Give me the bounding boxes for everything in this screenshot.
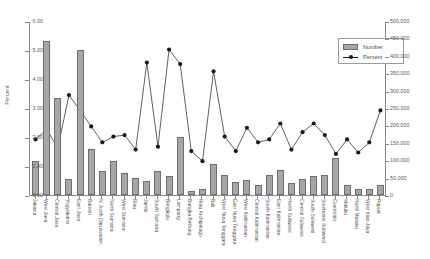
x-axis-label-south-kalimantan: South Kalimantan xyxy=(265,199,270,238)
y-axis-right-tick-label: 300,000 xyxy=(390,89,430,94)
percent-marker-south-sulawesi: South Sulawesi: 2.50% xyxy=(312,121,316,125)
bar-papua xyxy=(377,185,384,195)
bar-south-sumatra xyxy=(154,171,161,195)
x-axis-label-bangka-belitung: Bangka Belitung xyxy=(187,199,192,235)
y-axis-right-tick xyxy=(385,74,389,75)
bar-south-sulawesi xyxy=(310,176,317,195)
percent-marker-central-kalimantan: Central Kalimantan: 1.85% xyxy=(256,140,260,144)
y-axis-left-tick-label: 6.00 xyxy=(15,19,43,24)
percent-marker-bengkulu: Bengkulu: 5.05% xyxy=(167,47,171,51)
percent-marker-north-sumatra: North Sumatra: 2.05% xyxy=(111,134,115,138)
y-axis-left-label: Percent xyxy=(4,72,10,118)
bar-west-kalimantan xyxy=(243,180,250,195)
bar-east-java xyxy=(77,50,84,195)
y-axis-left-tick-label: 0.00 xyxy=(15,193,43,198)
y-axis-right-tick xyxy=(385,39,389,40)
percent-marker-north-maluku: North Maluku: 1.50% xyxy=(356,150,360,154)
percent-marker-jambi: Jambi: 4.60% xyxy=(145,61,149,65)
y-axis-right-tick-label: 250,000 xyxy=(390,106,430,111)
percent-marker-bali: Bali: 4.30% xyxy=(211,69,215,73)
x-axis-label-west-nusa-tenggara: West Nusa Tenggara xyxy=(221,199,226,246)
x-axis-label-southeast-sulawesi: Southeast Sulawesi xyxy=(321,199,326,243)
y-axis-left-tick-label: 4.00 xyxy=(15,77,43,82)
bar-riau-archipelago xyxy=(199,189,206,195)
y-axis-right-tick-label: 450,000 xyxy=(390,36,430,41)
bar-southeast-sulawesi xyxy=(321,175,328,195)
bar-yogyakarta xyxy=(65,179,72,195)
bar-west-java xyxy=(43,41,50,195)
legend-item-number: Number xyxy=(343,42,403,52)
y-axis-right-tick-label: 500,000 xyxy=(390,19,430,24)
y-axis-left-tick xyxy=(25,196,29,197)
y-axis-right-tick-label: 100,000 xyxy=(390,158,430,163)
y-axis-right-tick xyxy=(385,179,389,180)
bar-north-sulawesi xyxy=(288,183,295,195)
x-axis-label-papua: Papua xyxy=(376,199,381,213)
percent-marker-west-kalimantan: West Kalimantan: 2.35% xyxy=(245,126,249,130)
x-axis-label-east-kalimantan: East Kalimantan xyxy=(276,199,281,235)
y-axis-left-tick xyxy=(25,80,29,81)
x-axis-label-east-java: East Java xyxy=(76,199,81,221)
percent-marker-riau-archipelago: Riau Archipelago: 1.20% xyxy=(200,159,204,163)
plot-area: Jakarta: 1.95%West Java: 2.30%Central Ja… xyxy=(29,22,385,196)
percent-marker-riau: Riau: 1.60% xyxy=(134,148,138,152)
percent-marker-southeast-sulawesi: Southeast Sulawesi: 2.10% xyxy=(323,133,327,137)
percent-marker-east-kalimantan: East Kalimantan: 2.50% xyxy=(278,121,282,125)
chart-figure: Number and Percent of Population Percent… xyxy=(0,0,430,259)
x-axis-label-n-aceh-darussalam: N. Aceh Darussalam xyxy=(98,199,103,245)
x-axis-label-bengkulu: Bengkulu xyxy=(165,199,170,220)
bar-central-java xyxy=(54,98,61,195)
percent-marker-west-sumatra: West Sumatra: 2.10% xyxy=(122,133,126,137)
bar-maluku xyxy=(344,185,351,195)
x-axis-label-banten: Banten xyxy=(87,199,92,215)
y-axis-left-tick-label: 1.00 xyxy=(15,164,43,169)
legend-label-percent: Percent xyxy=(363,54,382,60)
x-axis-label-bali: Bali xyxy=(210,199,215,207)
x-axis-label-west-sumatra: West Sumatra xyxy=(121,199,126,231)
percent-marker-south-sumatra: South Sumatra: 1.70% xyxy=(156,145,160,149)
y-axis-right-tick xyxy=(385,92,389,93)
y-axis-right-tick-label: 150,000 xyxy=(390,141,430,146)
bar-bangka-belitung xyxy=(188,191,195,195)
x-axis-label-west-kalimantan: West Kalimantan xyxy=(243,199,248,237)
x-axis-label-west-irian-jaya: West Irian Jaya xyxy=(365,199,370,233)
percent-marker-bangka-belitung: Bangka Belitung: 1.55% xyxy=(189,149,193,153)
y-axis-left-tick xyxy=(25,138,29,139)
bar-west-nusa-tenggara xyxy=(221,175,228,195)
bar-gorontalo xyxy=(332,158,339,195)
y-axis-right-tick-label: 350,000 xyxy=(390,71,430,76)
x-axis-label-lampung: Lampung xyxy=(176,199,181,220)
bar-jambi xyxy=(143,181,150,195)
x-axis-label-riau: Riau xyxy=(132,199,137,209)
x-axis-label-north-sumatra: North Sumatra xyxy=(109,199,114,232)
y-axis-left-tick xyxy=(25,109,29,110)
bar-north-maluku xyxy=(355,189,362,195)
percent-marker-lampung: Lampung: 4.55% xyxy=(178,62,182,66)
x-axis-label-yogyakarta: Yogyakarta xyxy=(65,199,70,224)
x-axis-label-central-sulawesi: Central Sulawesi xyxy=(299,199,304,237)
percent-marker-west-irian-jaya: West Irian Jaya: 1.85% xyxy=(367,140,371,144)
x-axis-label-east-nusa-tenggara: East Nusa Tenggara xyxy=(232,199,237,244)
y-axis-right-tick-label: 400,000 xyxy=(390,54,430,59)
bar-bali xyxy=(210,164,217,195)
x-axis-label-central-kalimantan: Central Kalimantan xyxy=(254,199,259,242)
percent-marker-banten: Banten: 2.40% xyxy=(89,124,93,128)
bar-riau xyxy=(132,178,139,195)
percent-marker-yogyakarta: Yogyakarta: 3.48% xyxy=(67,93,71,97)
y-axis-left-tick xyxy=(25,167,29,168)
y-axis-right-tick xyxy=(385,196,389,197)
y-axis-left-tick xyxy=(25,51,29,52)
x-axis-label-jambi: Jambi xyxy=(143,199,148,212)
x-axis-label-gorontalo: Gorontalo xyxy=(332,199,337,221)
percent-marker-east-nusa-tenggara: East Nusa Tenggara: 1.55% xyxy=(234,149,238,153)
x-axis-label-west-java: West Java xyxy=(43,199,48,222)
y-axis-left-tick-label: 5.00 xyxy=(15,48,43,53)
y-axis-left-tick xyxy=(25,22,29,23)
percent-marker-n-aceh-darussalam: N. Aceh Darussalam: 1.85% xyxy=(100,140,104,144)
bar-lampung xyxy=(177,137,184,195)
bar-east-kalimantan xyxy=(277,170,284,195)
percent-marker-central-sulawesi: Central Sulawesi: 2.20% xyxy=(300,130,304,134)
bar-n-aceh-darussalam xyxy=(99,171,106,195)
bar-south-kalimantan xyxy=(266,175,273,195)
x-axis-label-south-sulawesi: South Sulawesi xyxy=(310,199,315,233)
